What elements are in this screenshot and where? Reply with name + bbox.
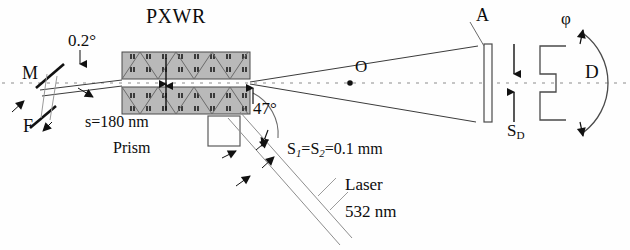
output-ray-lower bbox=[250, 84, 476, 122]
aperture-label: A bbox=[476, 6, 489, 24]
pxwr-label: PXWR bbox=[146, 6, 206, 26]
aperture-plate bbox=[484, 44, 492, 122]
arrow-into-mirror bbox=[12, 101, 24, 112]
arrow-to-pxwr bbox=[78, 88, 93, 97]
prism-label: Prism bbox=[113, 140, 150, 156]
laser-body-edge-1 bbox=[318, 178, 336, 196]
prism-element bbox=[208, 116, 240, 146]
pxwr-lower-block bbox=[122, 87, 250, 114]
slit-1-symbol: S bbox=[287, 140, 296, 157]
mirror-element bbox=[36, 64, 64, 88]
prism-angle-label: 47° bbox=[253, 100, 277, 117]
laser-label: Laser bbox=[345, 176, 383, 193]
laser-ray-2 bbox=[240, 112, 352, 238]
wavelength-label: 532 nm bbox=[345, 203, 396, 220]
optical-setup-diagram: PXWR 0.2° M F s=180 nm Prism 47° S1=S2=0… bbox=[0, 0, 630, 250]
rotation-angle-label: φ bbox=[561, 10, 571, 27]
filter-label: F bbox=[23, 117, 33, 135]
slits-label: S1=S2=0.1 mm bbox=[287, 141, 383, 159]
input-beam-upper-ray bbox=[40, 80, 122, 90]
slit-width-label: s=180 nm bbox=[85, 114, 149, 130]
laser-ray-1 bbox=[228, 118, 340, 245]
detector-slit-subscript: D bbox=[516, 129, 524, 141]
laser-arrow-lower bbox=[236, 176, 250, 186]
incidence-angle-label: 0.2° bbox=[68, 32, 96, 49]
detector-label: D bbox=[585, 62, 599, 81]
slits-value: =0.1 mm bbox=[325, 140, 383, 157]
slit-arrow-1 bbox=[256, 140, 268, 150]
axis-point-label: O bbox=[355, 58, 367, 75]
rotation-arrow-top bbox=[580, 30, 583, 44]
rotation-arrow-bottom bbox=[580, 122, 583, 136]
pxwr-upper-block bbox=[122, 52, 250, 79]
slit-width-value: =180 nm bbox=[91, 113, 148, 130]
mirror-label: M bbox=[22, 64, 38, 82]
slit-2-symbol: S bbox=[310, 140, 319, 157]
beam-leg-b bbox=[50, 76, 57, 120]
prism-arrow-left bbox=[222, 151, 236, 158]
aperture-leader bbox=[470, 22, 484, 46]
arrow-below-filter bbox=[43, 122, 52, 131]
axis-point-o bbox=[347, 80, 353, 86]
detector-slit-label: SD bbox=[507, 122, 525, 141]
pxwr-assembly bbox=[122, 52, 250, 114]
